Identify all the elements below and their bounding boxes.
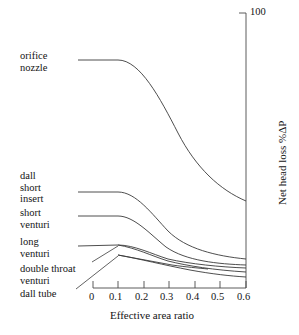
x-tick-label-0-5: 0.5 <box>211 291 224 303</box>
series-label-short-venturi-line1: short <box>20 207 50 219</box>
series-label-long-venturi-line1: long <box>20 236 50 248</box>
series-label-dall-tube: dall tube <box>20 288 56 300</box>
series-label-dall-line1: dall <box>20 170 43 182</box>
series-label-short-venturi: short venturi <box>20 207 50 230</box>
series-label-long-venturi-line2: venturi <box>20 248 50 260</box>
curve-dall-short-insert <box>78 192 246 259</box>
series-label-dall-short-insert: dall short insert <box>20 170 43 205</box>
series-label-orifice-line1: orifice <box>20 50 47 62</box>
y-axis-top-value: 100 <box>250 6 266 18</box>
series-label-double-throat-line2: venturi <box>20 275 76 287</box>
series-label-long-venturi: long venturi <box>20 236 50 259</box>
leader-dall-tube <box>76 256 118 289</box>
x-axis-title: Effective area ratio <box>110 310 194 322</box>
chart-figure: orifice nozzle dall short insert short v… <box>0 0 299 335</box>
series-label-orifice-nozzle: orifice nozzle <box>20 50 47 73</box>
curve-short-venturi <box>78 216 246 265</box>
series-label-double-throat-line1: double throat <box>20 263 76 275</box>
x-tick-label-0: 0 <box>89 291 94 303</box>
series-label-dall-line2: short <box>20 182 43 194</box>
series-label-dall-line3: insert <box>20 193 43 205</box>
series-label-double-throat-venturi: double throat venturi <box>20 263 76 286</box>
series-label-orifice-line2: nozzle <box>20 62 47 74</box>
series-label-dall-tube-text: dall tube <box>20 288 56 300</box>
curve-orifice-nozzle <box>78 60 246 201</box>
x-tick-label-0-6: 0.6 <box>237 291 250 303</box>
x-axis-ticks <box>93 281 246 288</box>
series-label-short-venturi-line2: venturi <box>20 219 50 231</box>
y-axis-title: Net head loss %ΔP <box>276 121 288 205</box>
x-tick-label-0-3: 0.3 <box>160 291 173 303</box>
x-tick-label-0-1: 0.1 <box>109 291 122 303</box>
x-tick-label-0-2: 0.2 <box>135 291 148 303</box>
x-tick-label-0-4: 0.4 <box>186 291 199 303</box>
leader-double-throat-venturi <box>92 246 118 262</box>
